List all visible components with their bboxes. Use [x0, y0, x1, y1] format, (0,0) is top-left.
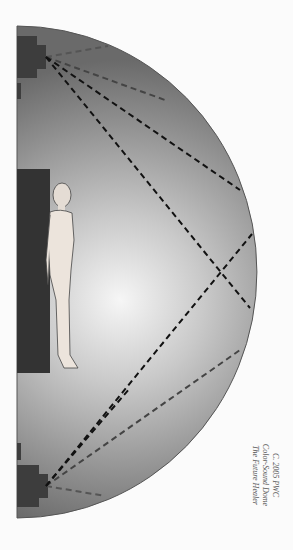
caption-line-3: The Future Healer — [250, 430, 260, 520]
caption-line-2: Color-Sound Dome — [260, 430, 270, 520]
copyright-caption: C. 2005 PWC Color-Sound Dome The Future … — [250, 430, 280, 520]
platform-block — [17, 169, 50, 373]
caption-line-1: C. 2005 PWC — [270, 430, 280, 520]
